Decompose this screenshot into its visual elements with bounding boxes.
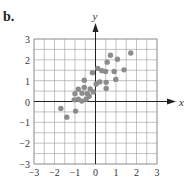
data-point — [91, 89, 96, 94]
y-tick-label: 1 — [25, 76, 30, 87]
y-tick-label: 3 — [25, 34, 30, 45]
y-tick-label: −3 — [19, 159, 30, 170]
x-tick-label: −2 — [49, 167, 60, 178]
data-point — [104, 59, 109, 64]
x-tick-label: 1 — [114, 167, 119, 178]
data-point — [103, 80, 108, 85]
data-point — [58, 106, 63, 111]
data-point — [103, 69, 108, 74]
data-point — [115, 57, 120, 62]
data-point — [86, 94, 91, 99]
y-axis-label: y — [92, 10, 98, 22]
data-point — [111, 69, 116, 74]
data-point — [90, 70, 95, 75]
data-point — [97, 79, 102, 84]
x-tick-label: 0 — [93, 167, 98, 178]
data-point — [121, 67, 126, 72]
data-point — [82, 85, 87, 90]
y-axis-arrow-icon — [93, 23, 99, 32]
data-point — [64, 114, 69, 119]
data-point — [73, 108, 78, 113]
y-tick-label: −1 — [19, 117, 30, 128]
x-tick-label: −1 — [70, 167, 81, 178]
data-point — [113, 77, 118, 82]
x-tick-label: 3 — [155, 167, 160, 178]
x-axis-arrow-icon — [167, 99, 176, 105]
data-point — [103, 86, 108, 91]
data-point — [82, 78, 87, 83]
x-tick-label: −3 — [29, 167, 40, 178]
x-axis-label: x — [178, 96, 184, 108]
data-point — [76, 87, 81, 92]
data-point — [128, 50, 133, 55]
data-point — [72, 91, 77, 96]
data-point — [108, 53, 113, 58]
scatter-plot: xy−3−2−10123−3−2−10123 — [0, 0, 187, 184]
y-tick-label: 0 — [25, 97, 30, 108]
y-tick-label: 2 — [25, 55, 30, 66]
y-tick-label: −2 — [19, 138, 30, 149]
x-tick-label: 2 — [134, 167, 139, 178]
data-point — [79, 90, 84, 95]
